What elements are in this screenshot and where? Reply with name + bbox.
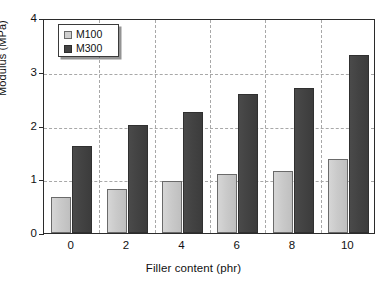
bar-m300-8 bbox=[294, 88, 314, 233]
y-tick-label: 0 bbox=[22, 228, 37, 240]
bar-m100-6 bbox=[217, 174, 237, 233]
y-tick-label: 2 bbox=[22, 121, 37, 133]
legend-swatch-icon-m100 bbox=[64, 31, 72, 39]
legend-item-m300: M300 bbox=[64, 42, 118, 55]
x-tick-label: 0 bbox=[51, 240, 91, 252]
x-axis-title: Filler content (phr) bbox=[0, 262, 387, 274]
x-tick-label: 4 bbox=[161, 240, 201, 252]
y-axis-title: Modulus (MPa) bbox=[0, 20, 8, 96]
legend: M100 M300 bbox=[58, 24, 119, 57]
bar-m300-6 bbox=[238, 94, 258, 233]
y-tick-label: 1 bbox=[22, 174, 37, 186]
bar-m100-0 bbox=[51, 197, 71, 233]
x-tick-label: 2 bbox=[106, 240, 146, 252]
bar-m300-0 bbox=[72, 146, 92, 233]
y-tick-label: 3 bbox=[22, 67, 37, 79]
bar-chart: Modulus (MPa) 01234 0246810 Filler conte… bbox=[0, 0, 387, 283]
x-tick-label: 8 bbox=[272, 240, 312, 252]
x-tick-label: 6 bbox=[217, 240, 257, 252]
y-tick-mark bbox=[39, 234, 44, 235]
y-tick-label: 4 bbox=[22, 13, 37, 25]
bar-m100-8 bbox=[273, 171, 293, 233]
legend-swatch-icon-m300 bbox=[64, 45, 72, 53]
legend-item-m100: M100 bbox=[64, 28, 118, 41]
x-tick-label: 10 bbox=[327, 240, 367, 252]
bar-m300-2 bbox=[128, 125, 148, 233]
bar-m100-10 bbox=[328, 159, 348, 233]
bar-m100-2 bbox=[107, 189, 127, 233]
legend-label-m100: M100 bbox=[76, 29, 102, 40]
bar-m300-10 bbox=[349, 55, 369, 233]
legend-label-m300: M300 bbox=[76, 43, 102, 54]
bar-m300-4 bbox=[183, 112, 203, 233]
bar-m100-4 bbox=[162, 181, 182, 233]
